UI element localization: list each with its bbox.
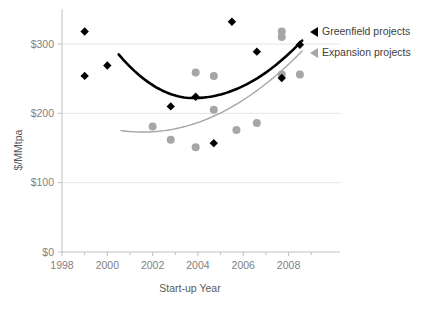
data-point: [167, 102, 175, 110]
data-point: [149, 123, 157, 131]
data-points-greenfield: [80, 18, 304, 148]
data-point: [192, 68, 200, 76]
chart-legend: Greenfield projectsExpansion projects: [310, 25, 411, 58]
y-tick-label: $0: [42, 246, 54, 258]
data-point: [210, 106, 218, 114]
data-point: [191, 92, 199, 100]
y-axis: $0$100$200$300: [31, 9, 62, 257]
data-point: [192, 143, 200, 151]
data-point: [228, 18, 236, 26]
data-point: [232, 126, 240, 134]
data-point: [253, 47, 261, 55]
x-axis: 199820002002200420062008: [50, 252, 311, 271]
data-point: [296, 71, 304, 79]
chart-container: $0$100$200$300 199820002002200420062008 …: [0, 0, 425, 310]
x-tick-label: 2008: [277, 259, 301, 271]
trendline-greenfield: [119, 41, 303, 99]
data-point: [253, 119, 261, 127]
data-point: [103, 61, 111, 69]
x-axis-title: Start-up Year: [159, 282, 221, 294]
trendline: [121, 51, 302, 132]
legend-label-expansion: Expansion projects: [322, 46, 411, 58]
trendline-expansion: [121, 51, 302, 132]
y-axis-title: $/MMtpa: [12, 129, 24, 170]
y-tick-label: $100: [31, 176, 55, 188]
x-tick-label: 2000: [96, 259, 120, 271]
data-points-expansion: [149, 28, 304, 152]
legend-label-greenfield: Greenfield projects: [322, 25, 410, 37]
trendline: [119, 41, 303, 99]
legend-marker-greenfield-icon: [310, 27, 318, 37]
y-tick-label: $300: [31, 38, 55, 50]
scatter-chart: $0$100$200$300 199820002002200420062008 …: [0, 0, 425, 310]
data-point: [80, 27, 88, 35]
data-point: [210, 139, 218, 147]
data-point: [278, 33, 286, 41]
data-point: [210, 72, 218, 80]
legend-marker-expansion-icon: [310, 48, 318, 58]
x-tick-label: 1998: [50, 259, 74, 271]
x-tick-label: 2004: [186, 259, 210, 271]
data-point: [167, 136, 175, 144]
y-tick-label: $200: [31, 107, 55, 119]
data-point: [80, 72, 88, 80]
x-tick-label: 2002: [141, 259, 165, 271]
x-tick-label: 2006: [232, 259, 256, 271]
